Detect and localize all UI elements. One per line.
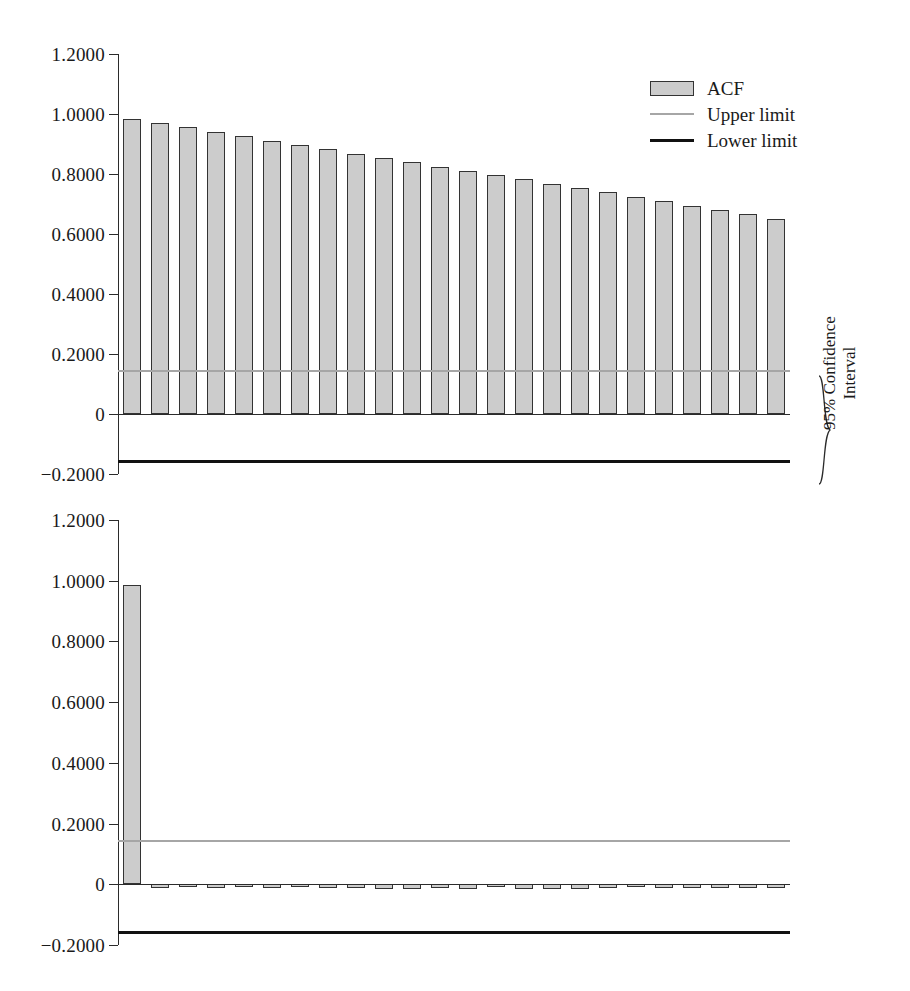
y-tick-mark <box>109 824 118 825</box>
legend-label: ACF <box>707 79 744 98</box>
bar <box>599 192 616 414</box>
bar <box>655 201 672 414</box>
y-tick-mark <box>109 763 118 764</box>
bar <box>711 210 728 414</box>
y-tick-label: 1.0000 <box>52 105 105 124</box>
legend-item-upper-limit[interactable]: Upper limit <box>650 101 797 127</box>
bar <box>767 219 784 414</box>
y-tick-mark <box>109 520 118 521</box>
bar <box>543 184 560 414</box>
bar <box>627 197 644 414</box>
upper-limit-line <box>118 370 790 372</box>
pacf-chart-panel: 1.20001.00000.80000.60000.40000.20000−0.… <box>0 500 910 980</box>
acf-legend: ACF Upper limit Lower limit <box>650 75 797 153</box>
bar <box>319 149 336 414</box>
y-tick-label: 0.2000 <box>52 345 105 364</box>
lower-limit-line <box>118 931 790 934</box>
lower-limit-line-icon <box>650 139 694 142</box>
bar <box>487 175 504 414</box>
y-tick-mark <box>109 174 118 175</box>
bar <box>235 136 252 414</box>
y-tick-label: 0.4000 <box>52 753 105 772</box>
y-tick-label: 0 <box>95 875 105 894</box>
ci-label-line2: Interval <box>840 316 860 430</box>
y-tick-mark <box>109 702 118 703</box>
bar <box>403 162 420 414</box>
legend-label: Lower limit <box>707 131 797 150</box>
running-head <box>0 0 910 3</box>
upper-limit-line-icon <box>650 113 694 115</box>
bar <box>291 145 308 414</box>
y-tick-label: 0.8000 <box>52 632 105 651</box>
pacf-bars <box>118 520 790 945</box>
y-tick-label: 0.6000 <box>52 693 105 712</box>
legend-label: Upper limit <box>707 105 795 124</box>
y-tick-mark <box>109 474 118 475</box>
bar <box>375 158 392 414</box>
pacf-zero-axis <box>118 884 790 885</box>
legend-item-lower-limit[interactable]: Lower limit <box>650 127 797 153</box>
y-tick-mark <box>109 114 118 115</box>
bar <box>683 206 700 415</box>
bar <box>571 188 588 414</box>
legend-item-acf[interactable]: ACF <box>650 75 797 101</box>
y-tick-mark <box>109 641 118 642</box>
y-tick-label: 1.2000 <box>52 511 105 530</box>
upper-limit-line <box>118 840 790 842</box>
y-tick-label: 1.0000 <box>52 571 105 590</box>
y-tick-label: 1.2000 <box>52 45 105 64</box>
lower-limit-line <box>118 460 790 463</box>
y-tick-mark <box>109 945 118 946</box>
y-tick-label: 0.4000 <box>52 285 105 304</box>
y-tick-mark <box>109 884 118 885</box>
pacf-plot-area: 1.20001.00000.80000.60000.40000.20000−0.… <box>118 520 790 945</box>
y-tick-mark <box>109 234 118 235</box>
bar <box>263 141 280 414</box>
y-tick-label: 0 <box>95 405 105 424</box>
y-tick-mark <box>109 354 118 355</box>
acf-chart-panel: 1.20001.00000.80000.60000.40000.20000−0.… <box>0 20 910 480</box>
bar <box>459 171 476 414</box>
bar <box>739 214 756 414</box>
y-tick-mark <box>109 294 118 295</box>
y-tick-mark <box>109 414 118 415</box>
y-tick-mark <box>109 54 118 55</box>
y-tick-label: −0.2000 <box>41 936 105 955</box>
y-tick-label: −0.2000 <box>41 465 105 484</box>
acf-ci-label: 95% Confidence Interval <box>820 316 859 430</box>
y-tick-label: 0.2000 <box>52 814 105 833</box>
y-tick-label: 0.6000 <box>52 225 105 244</box>
figure-page: 1.20001.00000.80000.60000.40000.20000−0.… <box>0 0 910 991</box>
y-tick-label: 0.8000 <box>52 165 105 184</box>
bar <box>515 179 532 414</box>
bar <box>347 154 364 414</box>
ci-label-line1: 95% Confidence <box>820 316 840 430</box>
bar <box>207 132 224 414</box>
acf-swatch-icon <box>650 81 694 96</box>
bar <box>431 167 448 415</box>
acf-zero-axis <box>118 414 790 415</box>
y-tick-mark <box>109 581 118 582</box>
